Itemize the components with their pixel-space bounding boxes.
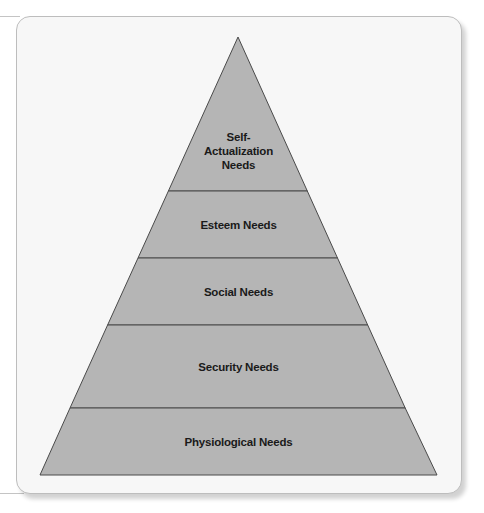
tier-label-line: Needs (222, 159, 256, 171)
tier-label: Physiological Needs (184, 436, 292, 448)
pyramid-tier-social: Social Needs (108, 258, 368, 325)
maslow-pyramid: Self- Actualization Needs Esteem Needs S… (0, 0, 484, 513)
tier-label-line: Self- (227, 131, 251, 143)
pyramid-tier-esteem: Esteem Needs (138, 191, 338, 258)
tier-label: Social Needs (204, 286, 273, 298)
pyramid-tier-security: Security Needs (70, 325, 405, 408)
tier-label: Security Needs (198, 361, 278, 373)
pyramid-tier-physiological: Physiological Needs (40, 408, 437, 475)
tier-label: Esteem Needs (200, 219, 276, 231)
pyramid-tier-self-actualization: Self- Actualization Needs (168, 37, 307, 191)
tier-label-line: Actualization (204, 145, 273, 157)
